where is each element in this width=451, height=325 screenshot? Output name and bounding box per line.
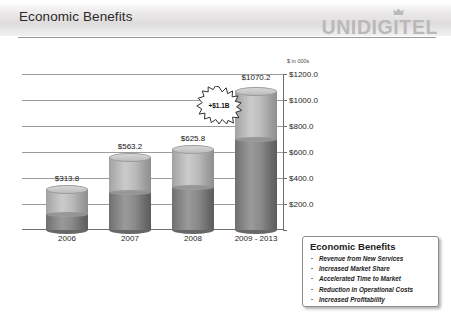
chart-bars-layer: $313.8 $563.2 $625.8 (22, 74, 283, 231)
list-item-label: Revenue from New Services (319, 255, 403, 262)
starburst-annotation[interactable]: +$1.1B (196, 86, 242, 124)
brand-logo: UNIDIGITEL (322, 9, 439, 37)
list-item: Revenue from New Services (319, 254, 433, 264)
list-item-label: Reduction in Operational Costs (319, 286, 413, 293)
bar-value-label: $563.2 (118, 142, 142, 151)
starburst-label: +$1.1B (196, 86, 242, 124)
bar-segment-lower (172, 187, 214, 230)
bar-2007[interactable]: $563.2 (109, 157, 151, 230)
y-tick-label-600: $600.0 (289, 148, 313, 157)
bar-segment-upper (172, 149, 214, 187)
cylinder-top-ellipse (109, 153, 151, 162)
bullet-dash-icon (311, 258, 313, 259)
x-tick-label-2008: 2008 (184, 234, 202, 243)
y-tick-label-1000: $1000.0 (289, 96, 318, 105)
x-axis-labels: 2006 2007 2008 2009 - 2013 (22, 234, 283, 250)
y-axis-tick (283, 230, 287, 231)
list-item-label: Accelerated Time to Market (319, 275, 401, 282)
bullet-dash-icon (311, 268, 313, 269)
cylinder-top-ellipse (46, 185, 88, 194)
bullet-dash-icon (311, 289, 313, 290)
x-tick-label-2006: 2006 (58, 234, 76, 243)
bullet-dash-icon (311, 278, 313, 279)
bar-segment-lower (235, 139, 277, 230)
y-axis-tick (283, 126, 287, 127)
segment-seam-ellipse (46, 212, 88, 217)
benefits-callout-title: Economic Benefits (310, 241, 433, 252)
y-tick-label-200: $200.0 (289, 200, 313, 209)
y-axis-tick (283, 204, 287, 205)
page-title: Economic Benefits (19, 9, 133, 24)
bar-cylinder (46, 189, 88, 230)
benefits-list: Revenue from New Services Increased Mark… (310, 254, 433, 305)
bar-2008[interactable]: $625.8 (172, 149, 214, 230)
y-axis-tick (283, 178, 287, 179)
bar-cylinder (109, 157, 151, 230)
list-item-label: Increased Market Share (319, 265, 390, 272)
benefits-callout-box: Economic Benefits Revenue from New Servi… (302, 236, 439, 307)
bar-value-label: $625.8 (181, 134, 205, 143)
bar-segment-upper (109, 157, 151, 192)
y-tick-label-800: $800.0 (289, 122, 313, 131)
y-axis-tick (283, 100, 287, 101)
x-tick-label-2007: 2007 (121, 234, 139, 243)
list-item: Increased Profitability (319, 295, 433, 305)
y-tick-label-1200: $1200.0 (289, 70, 318, 79)
y-axis-tick (283, 74, 287, 75)
y-axis-labels: $1200.0 $1000.0 $800.0 $600.0 $400.0 $20… (289, 74, 349, 231)
y-tick-label-400: $400.0 (289, 174, 313, 183)
list-item-label: Increased Profitability (319, 296, 385, 303)
chart-units-label: $ in 000s (287, 58, 309, 64)
bar-value-label: $1070.2 (242, 73, 271, 82)
y-axis-tick (283, 152, 287, 153)
segment-seam-ellipse (235, 137, 277, 142)
list-item: Increased Market Share (319, 264, 433, 274)
list-item: Accelerated Time to Market (319, 274, 433, 284)
bar-2006[interactable]: $313.8 (46, 189, 88, 230)
bar-value-label: $313.8 (55, 174, 79, 183)
crown-icon (393, 8, 404, 16)
bar-segment-lower (109, 192, 151, 230)
segment-seam-ellipse (172, 185, 214, 190)
bar-cylinder (172, 149, 214, 230)
list-item: Reduction in Operational Costs (319, 285, 433, 295)
brand-wordmark: UNIDIGITEL (322, 18, 439, 38)
x-tick-label-2009-2013: 2009 - 2013 (235, 234, 278, 243)
cylinder-top-ellipse (172, 145, 214, 154)
segment-seam-ellipse (109, 190, 151, 195)
bullet-dash-icon (311, 299, 313, 300)
slide-header: Economic Benefits UNIDIGITEL (0, 0, 451, 44)
